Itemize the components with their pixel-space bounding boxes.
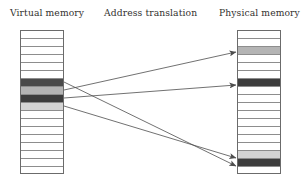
translation-arrow xyxy=(64,52,236,90)
translation-arrow xyxy=(64,82,236,166)
translation-arrow xyxy=(64,106,236,158)
diagram-canvas: Virtual memory Address translation Physi… xyxy=(0,0,306,183)
address-translation-arrows xyxy=(0,0,306,183)
translation-arrow xyxy=(64,85,236,98)
